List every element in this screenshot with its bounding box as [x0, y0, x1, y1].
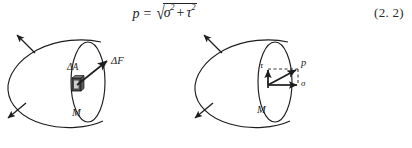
subfigure-a: ΔA ΔF M	[0, 28, 124, 128]
sigma-label: σ	[301, 78, 306, 88]
equation-row: p=√σ2+τ2 (2. 2)	[0, 4, 412, 30]
boundary-arrow-upper-left-a	[17, 35, 35, 53]
equation-expression: p=√σ2+τ2	[0, 4, 330, 22]
equation-radicand: σ2+τ2	[163, 3, 198, 21]
delta-a-label: ΔA	[66, 62, 79, 72]
sigma-exponent: 2	[171, 3, 175, 12]
equation-lhs: p	[133, 6, 140, 21]
boundary-arrow-upper-left-b	[204, 35, 222, 53]
p-label: p	[300, 57, 306, 68]
boundary-arrow-lower-left-b	[195, 103, 213, 118]
plus-operator: +	[175, 5, 187, 20]
body-outline-a	[8, 40, 103, 128]
figure-area: ΔA ΔF M	[0, 28, 412, 148]
boundary-arrow-lower-left-a	[8, 103, 26, 118]
figure-page: p=√σ2+τ2 (2. 2)	[0, 0, 412, 148]
equation-radical: √σ2+τ2	[155, 4, 197, 22]
subfigure-b: τ p σ M	[195, 35, 306, 128]
equation-number: (2. 2)	[374, 5, 404, 21]
body-outline-b	[195, 40, 290, 128]
tau-label: τ	[260, 60, 264, 70]
tau-exponent: 2	[191, 3, 195, 12]
body-label-m-a: M	[71, 107, 82, 118]
sigma-term: σ	[164, 5, 171, 20]
body-label-m-b: M	[256, 104, 267, 115]
figure-diagrams: ΔA ΔF M	[0, 28, 412, 148]
delta-f-label: ΔF	[110, 55, 124, 66]
equation-equals: =	[140, 6, 156, 21]
delta-f-arrow	[77, 61, 107, 85]
